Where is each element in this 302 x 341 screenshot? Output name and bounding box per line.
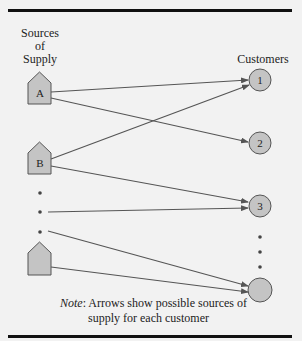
arrow-B-to-1 <box>51 85 249 159</box>
arrow-B-to-3 <box>51 166 248 202</box>
arrow-A-to-2 <box>51 98 248 142</box>
source-last-house-icon <box>28 242 51 275</box>
customer-last-circle-icon <box>248 278 272 302</box>
arrow-A-to-1 <box>51 80 248 92</box>
arrow-dots-to-last <box>48 231 248 286</box>
sources-label-line3: Supply <box>12 53 68 66</box>
diagram-note: Note: Arrows show possible sources of su… <box>60 296 247 326</box>
arrow-last-to-last <box>51 267 248 292</box>
customer-1-label: 1 <box>250 74 270 86</box>
customer-2-label: 2 <box>250 137 270 149</box>
source-B-label: B <box>30 157 50 169</box>
note-label: Note <box>60 296 83 310</box>
customers-label: Customers <box>228 53 298 66</box>
note-text-line2: supply for each customer <box>60 311 247 326</box>
customer-3-label: 3 <box>250 200 270 212</box>
arrows <box>48 80 249 292</box>
note-text-line1: : Arrows show possible sources of <box>83 296 247 310</box>
source-ellipsis-icon <box>38 191 42 234</box>
sources-of-supply-label: Sources of Supply <box>12 27 68 66</box>
source-A-label: A <box>30 87 50 99</box>
customer-ellipsis-icon <box>258 235 262 269</box>
arrow-dots-to-3 <box>48 208 248 212</box>
